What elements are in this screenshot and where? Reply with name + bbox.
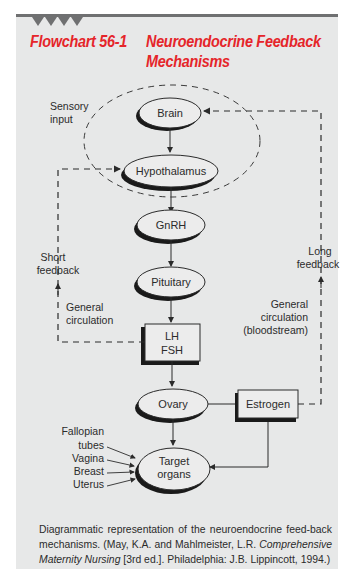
- organ-fallopian-line1: Fallopian: [61, 425, 104, 437]
- gnrh-label: GnRH: [156, 219, 187, 231]
- node-ovary: Ovary: [135, 389, 208, 423]
- general-circulation-left-line1: General: [66, 301, 103, 313]
- hypothalamus-label: Hypothalamus: [136, 165, 207, 177]
- lh-label: LH: [165, 330, 179, 342]
- node-lh-fsh: LH FSH: [141, 324, 200, 365]
- ovary-label: Ovary: [158, 398, 188, 410]
- flowchart-diagram: Brain Hypothalamus GnRH Pituitary LH FSH…: [0, 0, 360, 569]
- short-feedback-label-line1: Short: [40, 251, 65, 263]
- node-estrogen: Estrogen: [235, 390, 298, 422]
- long-feedback-label-line1: Long: [308, 245, 332, 257]
- long-feedback-label-line2: feedback: [297, 258, 340, 270]
- general-circulation-left-line2: circulation: [66, 314, 113, 326]
- node-hypothalamus: Hypothalamus: [121, 155, 218, 191]
- sensory-label-line2: input: [50, 113, 73, 125]
- general-circulation-right-line1: General: [271, 298, 308, 310]
- node-pituitary: Pituitary: [134, 267, 205, 301]
- sensory-label-line1: Sensory: [50, 100, 89, 112]
- target-label-line1: Target: [159, 455, 190, 467]
- brain-label: Brain: [157, 107, 183, 119]
- target-label-line2: organs: [157, 468, 191, 480]
- pituitary-label: Pituitary: [151, 276, 191, 288]
- caption-text-end: [3rd ed.]. Philadelphia: J.B. Lippincott…: [120, 554, 330, 565]
- figure-caption: Diagrammatic representation of the neuro…: [39, 522, 332, 567]
- organ-vagina: Vagina: [72, 452, 104, 464]
- short-feedback-label-line2: feedback: [37, 264, 80, 276]
- node-target-organs: Target organs: [135, 448, 210, 494]
- fsh-label: FSH: [161, 344, 183, 356]
- organ-breast: Breast: [74, 465, 104, 477]
- node-brain: Brain: [136, 98, 201, 131]
- organ-fallopian-line2: tubes: [78, 439, 104, 451]
- organ-uterus: Uterus: [73, 478, 104, 490]
- general-circulation-right-line2: circulation: [261, 311, 308, 323]
- estrogen-label: Estrogen: [246, 398, 290, 410]
- node-gnrh: GnRH: [134, 210, 205, 244]
- general-circulation-right-line3: (bloodstream): [243, 324, 308, 336]
